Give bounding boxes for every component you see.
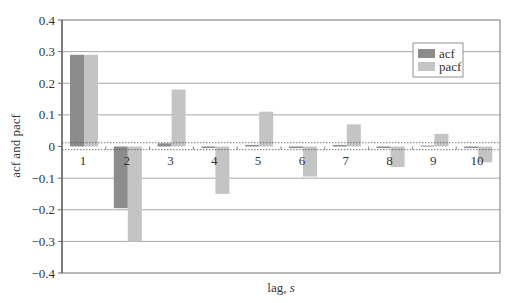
x-axis-label: lag, s xyxy=(267,280,294,295)
bar-pacf-lag-9 xyxy=(434,134,448,147)
x-tick-label: 9 xyxy=(430,153,437,168)
legend-swatch-pacf xyxy=(418,62,435,71)
x-tick-label: 2 xyxy=(123,153,130,168)
x-axis-label-text: lag, xyxy=(267,280,289,295)
y-tick-label: −0.4 xyxy=(31,266,55,281)
y-axis-label: acf and pacf xyxy=(8,114,23,178)
bar-pacf-lag-3 xyxy=(172,90,186,147)
x-tick-label: 5 xyxy=(255,153,262,168)
y-tick-label: −0.1 xyxy=(31,171,55,186)
bar-acf-lag-9 xyxy=(420,146,434,147)
x-tick-label: 1 xyxy=(80,153,87,168)
x-tick-label: 7 xyxy=(342,153,349,168)
y-tick-label: 0.1 xyxy=(39,107,55,122)
bar-acf-lag-4 xyxy=(201,147,215,149)
y-tick-label: 0.4 xyxy=(39,13,56,28)
bar-acf-lag-6 xyxy=(289,147,303,149)
bar-acf-lag-1 xyxy=(70,55,84,147)
y-tick-label: 0.2 xyxy=(39,76,55,91)
bar-acf-lag-3 xyxy=(158,143,172,146)
legend-swatch-acf xyxy=(418,49,435,58)
x-axis-label-var: s xyxy=(290,280,295,295)
acf-pacf-bar-chart: 0.40.30.20.10−0.1−0.2−0.3−0.4 1234567891… xyxy=(0,0,512,303)
bar-pacf-lag-7 xyxy=(347,124,361,146)
x-tick-label: 3 xyxy=(167,153,174,168)
y-tick-label: 0.3 xyxy=(39,44,55,59)
x-tick-label: 10 xyxy=(471,153,484,168)
x-tick-label: 6 xyxy=(299,153,306,168)
bar-acf-lag-7 xyxy=(333,145,347,147)
bar-acf-lag-5 xyxy=(245,145,259,147)
y-tick-label: −0.3 xyxy=(31,234,55,249)
y-axis-ticks: 0.40.30.20.10−0.1−0.2−0.3−0.4 xyxy=(31,13,62,281)
y-tick-label: −0.2 xyxy=(31,202,55,217)
y-tick-label: 0 xyxy=(49,139,56,154)
legend: acf pacf xyxy=(413,43,463,77)
bar-pacf-lag-5 xyxy=(259,112,273,147)
bar-acf-lag-10 xyxy=(464,147,478,149)
legend-label-pacf: pacf xyxy=(439,59,462,74)
x-tick-label: 4 xyxy=(211,153,218,168)
x-tick-label: 8 xyxy=(386,153,393,168)
bar-acf-lag-8 xyxy=(377,147,391,149)
bar-pacf-lag-1 xyxy=(84,55,98,147)
